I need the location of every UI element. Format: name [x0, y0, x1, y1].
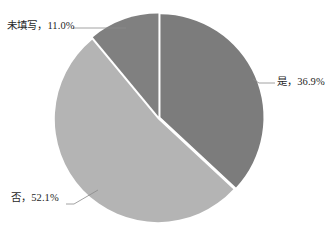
pie-label-fou: 否，52.1%: [11, 192, 59, 204]
pie-label-weitianxie: 未填写，11.0%: [7, 20, 75, 32]
pie-label-shi: 是，36.9%: [277, 76, 325, 88]
